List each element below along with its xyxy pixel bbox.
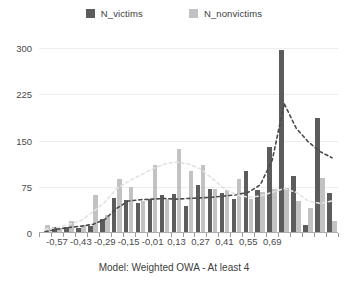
- legend-swatch-n-nonvictims: [189, 9, 198, 18]
- bar-chart: N_victims N_nonvictims 075150225300 -0,5…: [0, 0, 348, 291]
- y-axis-tick-label: 300: [16, 43, 32, 54]
- x-axis-tick-label: -0,01: [142, 236, 164, 247]
- x-axis-tick-label: -0,15: [118, 236, 140, 247]
- x-axis-tick-label: -0,57: [46, 236, 68, 247]
- x-axis-tick-label: 0,41: [215, 236, 234, 247]
- legend-item-n-nonvictims: N_nonvictims: [189, 8, 262, 19]
- x-axis-tick-label: -0,29: [94, 236, 116, 247]
- legend-item-n-victims: N_victims: [86, 8, 143, 19]
- x-axis-tick-label: 0,27: [191, 236, 210, 247]
- plot-area: [39, 48, 338, 233]
- y-axis-tick-label: 0: [27, 228, 32, 239]
- trend-line-n-victims: [45, 104, 332, 232]
- x-axis-labels: -0,57-0,43-0,29-0,15-0,010,130,270,410,5…: [39, 236, 338, 252]
- y-axis-labels: 075150225300: [0, 48, 36, 233]
- x-axis-tick-label: -0,43: [70, 236, 92, 247]
- chart-legend: N_victims N_nonvictims: [0, 8, 348, 19]
- x-axis-title: Model: Weighted OWA - At least 4: [0, 262, 348, 273]
- legend-swatch-n-victims: [86, 9, 95, 18]
- x-axis-tick-label: 0,69: [263, 236, 282, 247]
- trend-line-n-nonvictims: [45, 162, 332, 229]
- x-axis-tick: [338, 233, 339, 237]
- legend-label-n-victims: N_victims: [101, 8, 143, 19]
- x-axis-tick-label: 0,13: [167, 236, 186, 247]
- y-axis-tick-label: 225: [16, 89, 32, 100]
- y-axis-tick-label: 150: [16, 135, 32, 146]
- y-axis-tick-label: 75: [21, 181, 32, 192]
- trend-lines: [39, 48, 338, 233]
- x-axis-tick-label: 0,55: [239, 236, 258, 247]
- legend-label-n-nonvictims: N_nonvictims: [204, 8, 262, 19]
